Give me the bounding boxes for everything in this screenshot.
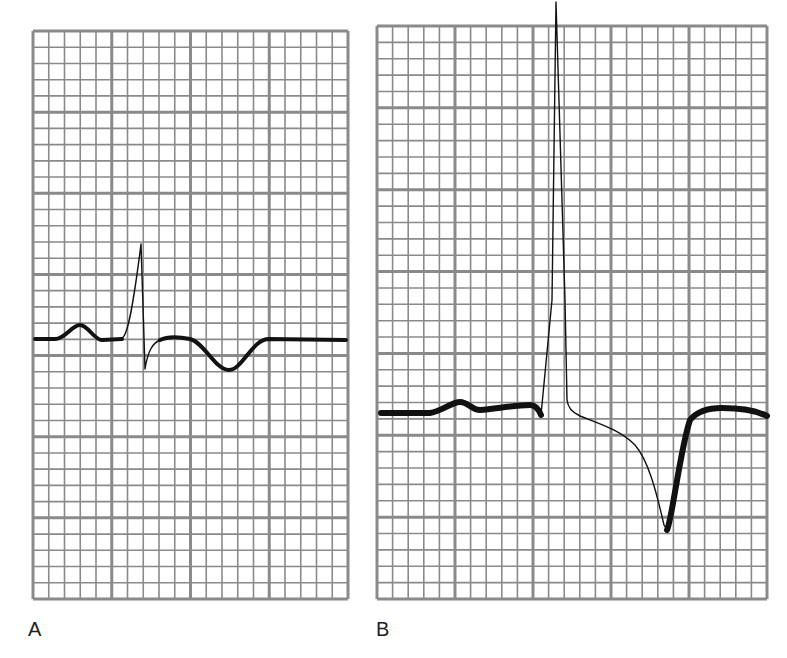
ecg-qrs-b: [541, 2, 667, 530]
panel-label-a: A: [28, 618, 41, 641]
panel-label-b: B: [376, 618, 389, 641]
grid-paper-b: [377, 26, 767, 599]
grid-paper-a: [33, 31, 348, 599]
ecg-canvas: [0, 0, 787, 658]
ecg-panel-a: [33, 31, 348, 599]
ecg-figure: A B: [0, 0, 787, 658]
ecg-panel-b: [377, 2, 767, 599]
